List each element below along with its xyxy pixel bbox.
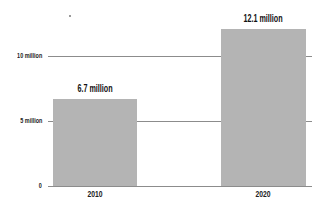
y-tick-label-5m: 5 million [20, 117, 42, 125]
baseline-0 [48, 186, 312, 187]
bar-2020 [221, 29, 306, 186]
bar-2010 [53, 99, 137, 186]
y-tick-label-0: 0 [39, 182, 42, 190]
value-label-2020: 12.1 million [227, 13, 299, 24]
x-tick-label-2020: 2020 [241, 189, 286, 199]
x-tick-label-2010: 2010 [73, 189, 118, 199]
decorative-dot [69, 15, 71, 17]
value-label-2010: 6.7 million [59, 83, 131, 94]
bar-chart: 10 million 5 million 0 6.7 million 12.1 … [0, 0, 326, 211]
y-tick-label-10m: 10 million [17, 52, 42, 60]
